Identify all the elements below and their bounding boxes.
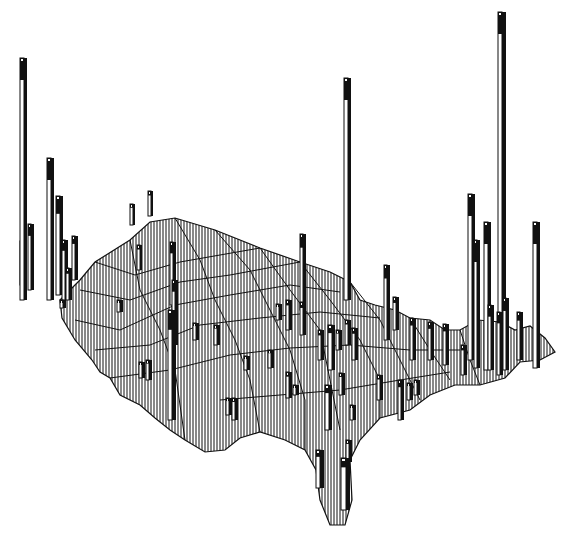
us-prism-map: [0, 0, 569, 539]
prism-bar: [461, 345, 467, 375]
prism-bar: [377, 375, 383, 400]
prism-bar: [20, 58, 27, 300]
prism-bar: [226, 398, 232, 415]
prism-bar: [336, 330, 342, 350]
prism-bar: [325, 385, 332, 430]
prism-bar: [517, 312, 523, 360]
prism-bar: [146, 360, 152, 380]
prism-bar: [474, 240, 480, 368]
prism-bar: [232, 398, 238, 420]
prism-bar: [300, 302, 306, 335]
prism-bar: [28, 224, 34, 290]
prism-bar: [428, 322, 434, 360]
prism-bar: [168, 310, 176, 420]
prism-bar: [398, 380, 404, 420]
prism-bar: [410, 318, 416, 360]
prism-bar: [60, 300, 66, 308]
prism-bar: [66, 268, 72, 300]
prism-bar: [117, 300, 123, 312]
prism-bar: [244, 356, 250, 370]
prism-bar: [316, 450, 324, 488]
prism-bar: [293, 385, 299, 395]
prism-bar: [214, 325, 220, 345]
prism-bar: [344, 78, 351, 300]
prism-bar: [328, 325, 335, 370]
prism-bar: [350, 405, 356, 420]
prism-bar: [47, 158, 54, 300]
prism-bar: [72, 236, 78, 280]
prism-bar: [286, 372, 292, 398]
prism-bar: [407, 383, 413, 400]
prism-bar: [139, 362, 145, 378]
map-landmass: [60, 218, 555, 525]
prism-bar: [137, 245, 142, 270]
prism-bar: [300, 234, 306, 310]
us-outline: [60, 218, 555, 525]
prism-bar: [443, 324, 449, 365]
prism-bar: [414, 380, 420, 395]
prism-map-figure: [0, 0, 569, 539]
prism-bar: [345, 320, 351, 345]
prism-bar: [393, 297, 399, 330]
prism-bar: [497, 312, 503, 375]
prism-bar: [286, 300, 292, 330]
prism-bar: [384, 265, 390, 340]
prism-bar: [276, 304, 282, 320]
prism-bar: [488, 305, 494, 370]
prism-bar: [339, 373, 345, 395]
prism-bar: [130, 204, 135, 225]
prism-bar: [268, 350, 274, 368]
prism-bar: [352, 328, 358, 360]
prism-bar: [193, 323, 199, 340]
prism-bar: [148, 191, 153, 216]
prism-bar: [341, 458, 350, 510]
prism-bar: [318, 330, 324, 360]
prism-bar: [533, 222, 540, 368]
prism-bar: [503, 298, 509, 370]
